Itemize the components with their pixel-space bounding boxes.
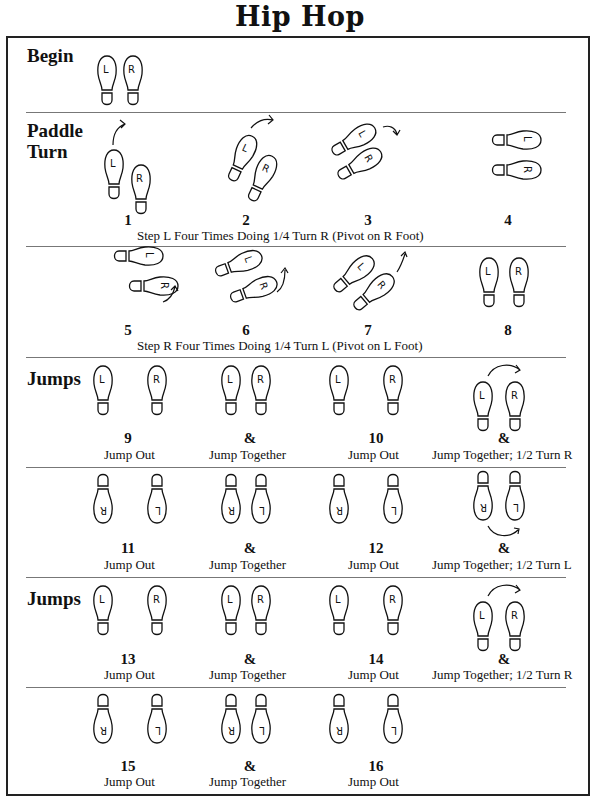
count-15: 15 — [98, 758, 158, 775]
caption: Jump Together; 1/2 Turn R — [432, 447, 572, 463]
count-and: & — [474, 651, 534, 668]
count-and: & — [220, 758, 280, 775]
caption: Jump Together — [209, 667, 286, 683]
caption: Jump Out — [348, 557, 399, 573]
svg-text:R: R — [228, 505, 235, 516]
jump-12-feet-icon: R L — [330, 475, 410, 530]
svg-text:L: L — [144, 252, 155, 258]
count-10: 10 — [346, 430, 406, 447]
svg-text:R: R — [389, 374, 396, 385]
svg-text:R: R — [515, 266, 522, 277]
svg-text:R: R — [375, 279, 388, 291]
count-and: & — [220, 430, 280, 447]
divider — [26, 112, 566, 113]
svg-text:R: R — [511, 390, 518, 401]
paddle-description-2: Step R Four Times Doing 1/4 Turn L (Pivo… — [137, 338, 422, 354]
caption: Jump Out — [104, 557, 155, 573]
jump-14-feet-icon: L R — [330, 586, 410, 638]
paddle-step-2-feet-icon: L R — [215, 112, 295, 212]
caption: Jump Together — [209, 557, 286, 573]
svg-text:L: L — [110, 158, 116, 169]
svg-text:L: L — [259, 725, 265, 736]
paddle-step-3-feet-icon: L R — [325, 118, 415, 208]
divider — [26, 577, 566, 578]
count-16: 16 — [346, 758, 406, 775]
svg-text:R: R — [389, 594, 396, 605]
caption: Jump Out — [348, 774, 399, 790]
caption: Jump Together — [209, 447, 286, 463]
foot-label-left: L — [103, 64, 109, 75]
svg-text:L: L — [479, 390, 485, 401]
count-1: 1 — [98, 212, 158, 229]
jump-and-1-feet-icon: L R — [222, 366, 282, 418]
count-6: 6 — [216, 322, 276, 339]
count-9: 9 — [98, 430, 158, 447]
caption: Jump Out — [348, 447, 399, 463]
paddle-description-1: Step L Four Times Doing 1/4 Turn R (Pivo… — [137, 228, 424, 244]
svg-text:R: R — [153, 594, 160, 605]
jump-11-feet-icon: R L — [94, 475, 174, 530]
svg-text:L: L — [155, 725, 161, 736]
svg-text:R: R — [336, 505, 343, 516]
jump-and-3-feet-icon: R L — [222, 475, 282, 530]
jump-15-feet-icon: R L — [94, 695, 174, 750]
section-label-jumps: Jumps — [27, 588, 81, 609]
svg-text:R: R — [100, 505, 107, 516]
svg-text:L: L — [259, 505, 265, 516]
svg-text:L: L — [227, 594, 233, 605]
jump-and-5-feet-icon: L R — [222, 586, 282, 638]
svg-text:L: L — [391, 505, 397, 516]
svg-text:L: L — [513, 502, 519, 513]
svg-text:R: R — [260, 162, 271, 175]
svg-text:R: R — [228, 725, 235, 736]
svg-text:L: L — [479, 610, 485, 621]
svg-text:L: L — [485, 266, 491, 277]
paddle-step-6-feet-icon: L R — [195, 250, 295, 320]
count-2: 2 — [216, 212, 276, 229]
page-title: Hip Hop — [0, 0, 600, 34]
svg-text:R: R — [522, 166, 533, 173]
divider — [26, 687, 566, 688]
divider — [26, 467, 566, 468]
svg-text:L: L — [355, 261, 367, 273]
count-and: & — [220, 540, 280, 557]
count-and: & — [474, 540, 534, 557]
paddle-step-5-feet-icon: L R — [85, 250, 185, 320]
jump-and-2-feet-icon: L R — [474, 360, 544, 432]
section-label-line2: Turn — [27, 141, 83, 162]
jump-and-4-feet-icon: R L — [474, 472, 544, 544]
svg-text:L: L — [99, 374, 105, 385]
svg-text:R: R — [100, 725, 107, 736]
caption: Jump Together — [209, 774, 286, 790]
caption: Jump Out — [348, 667, 399, 683]
svg-text:L: L — [335, 374, 341, 385]
svg-text:R: R — [480, 502, 487, 513]
count-4: 4 — [478, 212, 538, 229]
count-11: 11 — [98, 540, 158, 557]
svg-text:R: R — [511, 610, 518, 621]
svg-text:L: L — [99, 594, 105, 605]
svg-text:L: L — [155, 505, 161, 516]
jump-and-6-feet-icon: L R — [474, 580, 544, 652]
count-12: 12 — [346, 540, 406, 557]
svg-text:R: R — [257, 374, 264, 385]
section-label-begin: Begin — [27, 45, 73, 66]
count-14: 14 — [346, 651, 406, 668]
svg-text:L: L — [522, 136, 533, 142]
section-label-paddle-turn: Paddle Turn — [27, 120, 83, 162]
count-5: 5 — [98, 322, 158, 339]
svg-text:L: L — [240, 142, 250, 155]
caption: Jump Out — [104, 447, 155, 463]
section-label-line1: Paddle — [27, 120, 83, 141]
svg-text:R: R — [159, 282, 170, 289]
svg-text:L: L — [335, 594, 341, 605]
paddle-step-1-feet-icon: L R — [105, 115, 165, 215]
svg-text:R: R — [257, 281, 270, 291]
paddle-step-8-feet-icon: L R — [480, 258, 540, 310]
caption: Jump Together; 1/2 Turn R — [432, 667, 572, 683]
svg-text:L: L — [356, 129, 369, 140]
jump-10-feet-icon: L R — [330, 366, 410, 418]
svg-text:R: R — [257, 594, 264, 605]
svg-text:L: L — [242, 255, 254, 264]
svg-text:L: L — [391, 725, 397, 736]
